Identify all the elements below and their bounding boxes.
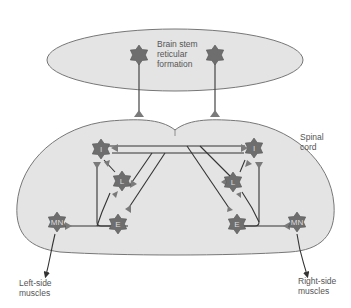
- brainstem-label-line: Brain stem: [157, 39, 198, 49]
- terminal-left: [134, 110, 144, 117]
- left-muscles-label: Left-side muscles: [19, 278, 52, 298]
- left-muscles-label-line: muscles: [19, 288, 52, 298]
- right-muscles-label-line: Right-side: [298, 276, 336, 286]
- svg-text:E: E: [234, 220, 239, 229]
- brainstem-label: Brain stem reticular formation: [157, 39, 198, 69]
- svg-text:MN: MN: [51, 218, 64, 227]
- svg-text:I: I: [100, 145, 102, 154]
- svg-text:L: L: [120, 177, 125, 186]
- svg-text:L: L: [231, 178, 236, 187]
- spinal-cord-label-line: cord: [300, 142, 324, 152]
- brainstem-label-line: reticular: [157, 49, 198, 59]
- terminal-right: [210, 110, 220, 117]
- svg-text:E: E: [115, 220, 120, 229]
- spinal-cord-label: Spinal cord: [300, 132, 324, 152]
- left-muscles-label-line: Left-side: [19, 278, 52, 288]
- spinal-cord-label-line: Spinal: [300, 132, 324, 142]
- brainstem-label-line: formation: [157, 59, 198, 69]
- spinal-cord-region: [17, 120, 334, 255]
- svg-text:MN: MN: [291, 218, 304, 227]
- svg-text:I: I: [253, 144, 255, 153]
- right-muscles-label-line: muscles: [298, 286, 336, 296]
- right-muscles-label: Right-side muscles: [298, 276, 336, 296]
